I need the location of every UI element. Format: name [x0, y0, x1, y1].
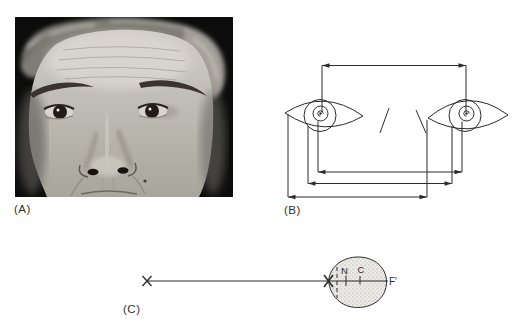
arrowhead-right	[455, 170, 463, 175]
right-eye-upper-lid-line	[428, 101, 508, 118]
left-eye-upper-lid-line	[285, 101, 363, 116]
focal-point-label: F′	[389, 276, 397, 287]
binocular-measurement-diagram	[285, 63, 508, 199]
panel-a-label: (A)	[14, 203, 31, 215]
arrowhead-right	[445, 181, 453, 186]
dimension-line-lower-2	[308, 126, 452, 186]
arrowhead-right	[459, 63, 467, 68]
dimension-line-top	[322, 63, 466, 112]
left-eye-drawing	[285, 100, 363, 132]
dimension-line-lower-1	[318, 122, 462, 175]
nose-right-slash	[416, 110, 426, 133]
arrowhead-left	[308, 181, 316, 186]
arrowhead-left	[322, 63, 330, 68]
arrowhead-left	[318, 170, 326, 175]
nose-marks	[380, 108, 426, 133]
diagram-layer: N C F′	[0, 0, 515, 329]
right-eye-drawing	[428, 100, 508, 132]
center-of-rotation-label: C	[358, 264, 365, 275]
panel-c-label: (C)	[123, 303, 140, 315]
nodal-point-label: N	[341, 265, 348, 276]
nose-left-slash	[380, 108, 389, 133]
panel-b-label: (B)	[284, 204, 301, 216]
right-eye-lower-lid-line	[428, 115, 508, 129]
figure-canvas: N C F′ (A) (B) (C)	[0, 0, 515, 329]
right-pupil-center-dot	[465, 112, 467, 114]
left-pupil-center-dot	[319, 112, 321, 114]
eye-optical-axis-diagram: N C F′	[143, 257, 398, 308]
arrowhead-right	[420, 195, 428, 200]
arrowhead-left	[288, 195, 296, 200]
